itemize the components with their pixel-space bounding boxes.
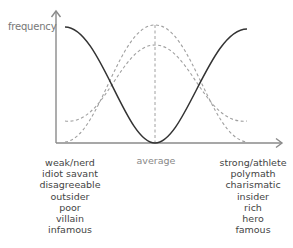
right-trait: polymath — [215, 168, 291, 179]
left-traits-list: weak/nerd idiot savant disagreeable outs… — [35, 157, 105, 235]
axes — [52, 11, 283, 148]
left-trait: weak/nerd — [35, 157, 105, 168]
y-axis-label: frequency — [8, 21, 56, 32]
left-trait: villain — [35, 213, 105, 224]
left-trait: idiot savant — [35, 168, 105, 179]
left-trait: outsider — [35, 191, 105, 202]
tall-bell-curve — [65, 25, 247, 142]
short-bell-curve — [65, 45, 247, 121]
right-trait: insider — [215, 191, 291, 202]
right-trait: famous — [215, 224, 291, 235]
x-axis-center-label: average — [131, 155, 181, 166]
right-trait: strong/athlete — [215, 157, 291, 168]
left-trait: infamous — [35, 224, 105, 235]
right-trait: rich — [215, 202, 291, 213]
inverted-bell-curve — [65, 27, 247, 143]
left-trait: poor — [35, 202, 105, 213]
left-trait: disagreeable — [35, 179, 105, 190]
right-trait: charismatic — [215, 179, 291, 190]
right-traits-list: strong/athlete polymath charismatic insi… — [215, 157, 291, 235]
right-trait: hero — [215, 213, 291, 224]
